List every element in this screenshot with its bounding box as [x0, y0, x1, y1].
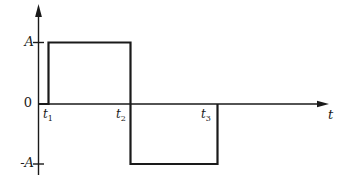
y-axis-arrowhead: [35, 4, 42, 17]
square-wave-figure: A 0 -A t1 t2 t3 t: [0, 0, 351, 183]
y-tick-label-zero: 0: [16, 96, 32, 110]
y-tick-label-A: A: [18, 35, 34, 49]
x-tick-label-t1: t1: [43, 107, 53, 126]
waveform-canvas: [0, 0, 351, 183]
t1-subscript: 1: [48, 114, 53, 123]
x-tick-label-t2: t2: [116, 107, 126, 126]
t2-subscript: 2: [121, 114, 126, 123]
square-wave-trace: [39, 43, 218, 165]
y-tick-label-negA: -A: [12, 156, 34, 170]
x-tick-label-t3: t3: [201, 107, 211, 126]
x-axis-label-t: t: [328, 108, 333, 122]
t3-subscript: 3: [206, 114, 211, 123]
